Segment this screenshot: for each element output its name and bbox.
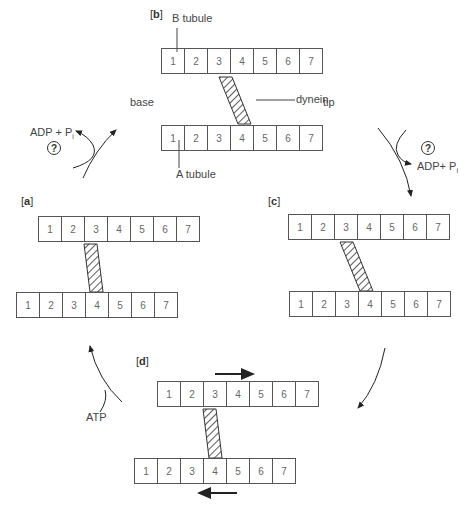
a-tubule-label: A tubule <box>176 168 216 180</box>
cell: 7 <box>155 293 178 317</box>
cell: 5 <box>381 215 404 239</box>
dynein-d <box>203 409 222 458</box>
cell: 6 <box>250 459 273 483</box>
cell: 3 <box>208 126 231 150</box>
b-tubule-row-d: 1 2 3 4 5 6 7 <box>157 381 319 407</box>
tip-label: tip <box>323 96 335 108</box>
a-tubule-row-c: 1 2 3 4 5 6 7 <box>289 291 451 317</box>
panel-label-c: [c] <box>268 195 280 207</box>
cell: 5 <box>109 293 132 317</box>
cell: 4 <box>108 217 131 241</box>
atp-label: ATP <box>86 411 107 423</box>
panel-label-b: [b] <box>150 8 163 20</box>
cell: 3 <box>204 382 227 406</box>
dynein-c <box>340 242 373 291</box>
adp-pi-left-label: ADP + Pi <box>30 126 74 140</box>
cell: 3 <box>208 49 231 73</box>
question-icon-right: ? <box>421 141 435 155</box>
dynein-a <box>84 244 103 292</box>
cell: 7 <box>300 126 323 150</box>
cell: 2 <box>312 215 335 239</box>
cell: 6 <box>405 292 428 316</box>
cell: 1 <box>162 126 185 150</box>
question-icon-left: ? <box>47 141 61 155</box>
b-tubule-label: B tubule <box>172 12 212 24</box>
cell: 1 <box>162 49 185 73</box>
cell: 1 <box>290 292 313 316</box>
cell: 2 <box>313 292 336 316</box>
cell: 4 <box>358 215 381 239</box>
cell: 4 <box>204 459 227 483</box>
cell: 5 <box>227 459 250 483</box>
cell: 4 <box>231 49 254 73</box>
cell: 1 <box>158 382 181 406</box>
cell: 7 <box>300 49 323 73</box>
cell: 7 <box>273 459 296 483</box>
cell: 7 <box>296 382 319 406</box>
cell: 6 <box>273 382 296 406</box>
cell: 1 <box>39 217 62 241</box>
cell: 3 <box>85 217 108 241</box>
cell: 3 <box>336 292 359 316</box>
b-tubule-row-b: 1 2 3 4 5 6 7 <box>161 48 323 74</box>
panel-label-d: [d] <box>136 355 149 367</box>
diagram-graphics <box>0 0 470 508</box>
a-tubule-row-d: 1 2 3 4 5 6 7 <box>134 458 296 484</box>
cell: 2 <box>40 293 63 317</box>
a-tubule-row-a: 1 2 3 4 5 6 7 <box>16 292 178 318</box>
cell: 6 <box>277 126 300 150</box>
cell: 5 <box>254 126 277 150</box>
a-tubule-row-b: 1 2 3 4 5 6 7 <box>161 125 323 151</box>
cell: 4 <box>86 293 109 317</box>
cell: 1 <box>289 215 312 239</box>
cell: 3 <box>181 459 204 483</box>
cell: 3 <box>335 215 358 239</box>
cell: 5 <box>254 49 277 73</box>
cell: 4 <box>231 126 254 150</box>
panel-label-a: [a] <box>21 195 33 207</box>
base-label: base <box>130 96 154 108</box>
cell: 6 <box>154 217 177 241</box>
cell: 4 <box>227 382 250 406</box>
cell: 5 <box>250 382 273 406</box>
cell: 3 <box>63 293 86 317</box>
cell: 5 <box>382 292 405 316</box>
cell: 1 <box>17 293 40 317</box>
cell: 4 <box>359 292 382 316</box>
b-tubule-row-a: 1 2 3 4 5 6 7 <box>38 216 200 242</box>
cell: 1 <box>135 459 158 483</box>
cell: 2 <box>181 382 204 406</box>
cell: 7 <box>177 217 200 241</box>
cell: 2 <box>185 126 208 150</box>
cell: 6 <box>132 293 155 317</box>
cell: 7 <box>428 292 451 316</box>
cell: 2 <box>185 49 208 73</box>
b-tubule-row-c: 1 2 3 4 5 6 7 <box>288 214 450 240</box>
cell: 6 <box>404 215 427 239</box>
dynein-b <box>219 77 251 124</box>
adp-pi-right-label: ADP+ Pi <box>417 160 458 174</box>
cell: 5 <box>131 217 154 241</box>
cell: 2 <box>62 217 85 241</box>
cell: 7 <box>427 215 450 239</box>
cell: 2 <box>158 459 181 483</box>
cell: 6 <box>277 49 300 73</box>
